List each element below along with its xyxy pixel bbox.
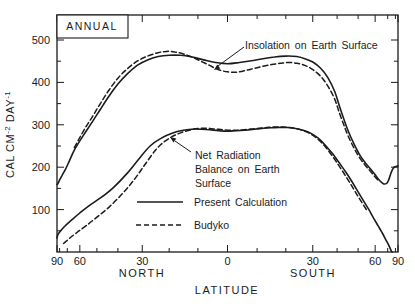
x-tick-label: 90 (392, 255, 404, 267)
figure-container: ANNUAL Insolation on Earth Surface Net R… (0, 0, 415, 308)
net-radiation-balance-on-earth-surface-present-calculation-curve (57, 127, 392, 252)
x-tick-label: 60 (74, 255, 86, 267)
x-tick-label: 90 (51, 255, 63, 267)
y-tick-label: 300 (32, 119, 50, 131)
insolation-label: Insolation on Earth Surface (245, 39, 378, 51)
y-tick-label: 100 (32, 204, 50, 216)
net-radiation-arrow-line (175, 141, 191, 152)
x-tick-label: 30 (307, 255, 319, 267)
legend: Present Calculation Budyko (136, 196, 287, 231)
annual-label: ANNUAL (66, 20, 118, 32)
north-label: NORTH (119, 267, 165, 279)
south-label: SOUTH (290, 267, 336, 279)
latitude-axis-label: LATITUDE (195, 284, 259, 296)
y-tick-label: 200 (32, 161, 50, 173)
y-tick-label: 500 (32, 34, 50, 46)
legend-budyko-label: Budyko (194, 219, 229, 231)
radiation-latitude-chart: ANNUAL Insolation on Earth Surface Net R… (0, 0, 415, 308)
legend-present-calculation-label: Present Calculation (194, 196, 287, 208)
x-tick-label: 30 (136, 255, 148, 267)
net-radiation-label-line3: Surface (195, 177, 231, 189)
x-tick-label: 60 (369, 255, 381, 267)
net-radiation-label-line1: Net Radiation (195, 149, 261, 161)
x-tick-label: 0 (224, 255, 230, 267)
y-tick-label: 400 (32, 76, 50, 88)
y-axis-label: CAL CM-2 DAY-1 (3, 91, 16, 178)
net-radiation-label-line2: Balance on Earth (195, 163, 280, 175)
